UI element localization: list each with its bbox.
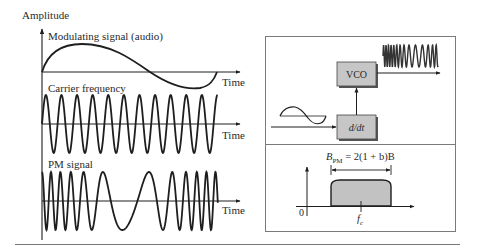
carrier-label: Carrier frequency (48, 82, 126, 94)
left-panel: Amplitude Modulating signal (audio) Time… (22, 9, 245, 240)
amplitude-axis-label: Amplitude (22, 9, 69, 21)
time-label-pm: Time (222, 204, 245, 216)
pm-diagram-figure: Amplitude Modulating signal (audio) Time… (0, 0, 477, 251)
origin-label: 0 (299, 207, 304, 218)
time-label-modulating: Time (222, 76, 245, 88)
pm-signal-label: PM signal (48, 158, 93, 170)
modulating-signal-plot: Modulating signal (audio) Time (42, 30, 245, 88)
right-panel: VCO d/dt BPM = 2(1 + b)B (266, 37, 456, 232)
differentiator-label: d/dt (349, 122, 365, 133)
carrier-plot: Carrier frequency Time (42, 82, 245, 153)
vco-label: VCO (346, 69, 367, 80)
time-label-carrier: Time (222, 129, 245, 141)
pm-signal-plot: PM signal Time (42, 158, 245, 230)
bandwidth-expression: = 2(1 + b)B (343, 151, 395, 163)
modulating-signal-label: Modulating signal (audio) (48, 30, 163, 43)
figure-canvas: Amplitude Modulating signal (audio) Time… (0, 0, 477, 251)
